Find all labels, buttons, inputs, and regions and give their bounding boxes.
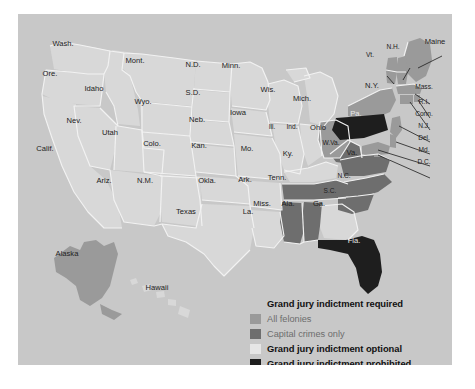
state-label-minn: Minn. xyxy=(222,61,241,70)
state-shape-connecticut[interactable] xyxy=(400,95,413,104)
state-label-calif: Calif. xyxy=(36,144,53,153)
state-label-tenn: Tenn. xyxy=(268,173,287,182)
legend-row-optional[interactable]: Grand jury indictment optional xyxy=(250,341,452,356)
state-label-maine: Maine xyxy=(425,37,446,46)
state-shape-newmexico[interactable] xyxy=(160,174,202,226)
state-label-vt: Vt. xyxy=(366,51,374,58)
state-label-kan: Kan. xyxy=(191,141,207,150)
legend-row-all-felonies[interactable]: All felonies xyxy=(250,311,452,326)
legend-label-all-felonies: All felonies xyxy=(267,314,311,324)
state-label-del: Del. xyxy=(418,134,430,141)
state-label-sd: S.D. xyxy=(186,88,201,97)
state-label-mont: Mont. xyxy=(126,56,145,65)
map-panel: Wash.Ore.IdahoMont.Wyo.Nev.UtahCalif.Ari… xyxy=(18,14,452,365)
state-label-colo: Colo. xyxy=(143,139,161,148)
state-shape-mississippi[interactable] xyxy=(280,202,304,244)
state-label-wva: W.Va. xyxy=(322,139,339,146)
legend-swatch-placeholder xyxy=(250,298,261,308)
state-label-mo: Mo. xyxy=(241,144,254,153)
state-label-okla: Okla. xyxy=(198,176,216,185)
state-label-dc: D.C. xyxy=(417,158,430,165)
state-label-va: Va. xyxy=(347,148,358,157)
map-figure: Wash.Ore.IdahoMont.Wyo.Nev.UtahCalif.Ari… xyxy=(0,0,475,389)
state-label-utah: Utah xyxy=(102,128,118,137)
state-label-fla: Fla. xyxy=(348,236,361,245)
state-label-ny: N.Y. xyxy=(365,81,379,90)
state-label-nh: N.H. xyxy=(386,43,399,50)
state-label-neb: Neb. xyxy=(189,115,205,124)
legend-title-prohibited: Grand jury indictment prohibited xyxy=(267,358,411,365)
state-label-la: La. xyxy=(243,207,254,216)
state-label-wyo: Wyo. xyxy=(134,97,151,106)
legend-row-prohibited[interactable]: Grand jury indictment prohibited xyxy=(250,356,452,365)
state-shape-newhampshire[interactable] xyxy=(396,56,408,84)
state-label-wash: Wash. xyxy=(52,39,73,48)
state-label-wis: Wis. xyxy=(261,85,276,94)
state-shape-tennessee[interactable] xyxy=(282,180,348,200)
state-label-ariz: Ariz. xyxy=(96,176,111,185)
state-label-miss: Miss. xyxy=(253,199,271,208)
state-label-pa: Pa. xyxy=(350,109,361,118)
state-label-ala: Ala. xyxy=(281,199,294,208)
state-label-ore: Ore. xyxy=(43,69,58,78)
state-label-nm: N.M. xyxy=(137,176,153,185)
state-label-ga: Ga. xyxy=(313,199,325,208)
legend-swatch-all-felonies xyxy=(250,314,261,324)
state-shape-delaware[interactable] xyxy=(390,134,396,148)
state-label-conn: Conn. xyxy=(415,110,433,117)
legend-swatch-capital-crimes-only xyxy=(250,329,261,339)
state-label-ark: Ark. xyxy=(238,175,252,184)
state-label-texas: Texas xyxy=(176,207,196,216)
state-label-nev: Nev. xyxy=(66,116,81,125)
state-label-nj: N.J. xyxy=(418,122,430,129)
state-label-ind: Ind. xyxy=(287,123,298,130)
state-label-ky: Ky. xyxy=(283,149,293,158)
state-label-sc: S.C. xyxy=(324,187,337,194)
state-label-iowa: Iowa xyxy=(230,108,247,117)
state-label-mass: Mass. xyxy=(415,83,433,90)
legend-title-required: Grand jury indictment required xyxy=(267,298,403,309)
legend-swatch-optional xyxy=(250,344,261,354)
state-label-md: Md. xyxy=(419,146,430,153)
legend-title-optional: Grand jury indictment optional xyxy=(267,343,402,354)
state-shape-alabama[interactable] xyxy=(302,202,322,242)
state-label-alaska: Alaska xyxy=(56,249,80,258)
state-label-idaho: Idaho xyxy=(84,84,103,93)
state-label-nc: N.C. xyxy=(337,172,350,179)
state-label-ri: R.I. xyxy=(419,98,429,105)
state-label-ill: Ill. xyxy=(269,123,276,130)
map-legend: Grand jury indictment required All felon… xyxy=(250,295,452,365)
legend-label-capital-crimes-only: Capital crimes only xyxy=(267,329,345,339)
state-label-nd: N.D. xyxy=(185,60,200,69)
state-shape-wyoming[interactable] xyxy=(140,102,192,136)
state-label-ohio: Ohio xyxy=(310,123,326,132)
legend-row-capital-crimes-only[interactable]: Capital crimes only xyxy=(250,326,452,341)
legend-swatch-prohibited xyxy=(250,359,261,366)
state-label-mich: Mich. xyxy=(293,94,311,103)
state-label-hawaii: Hawaii xyxy=(146,283,169,292)
legend-row-required: Grand jury indictment required xyxy=(250,295,452,311)
